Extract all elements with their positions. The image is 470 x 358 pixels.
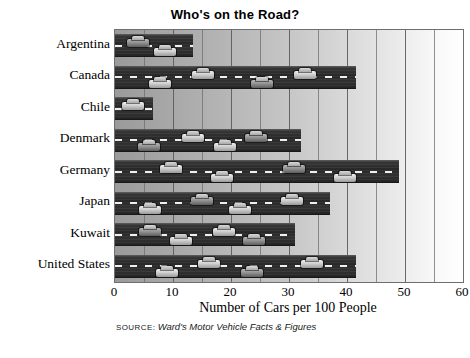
x-tick-label: 0 — [111, 284, 118, 300]
car-icon — [191, 197, 213, 205]
car-icon — [241, 269, 263, 277]
car-icon — [138, 143, 160, 151]
bar — [115, 34, 193, 57]
car-icon — [170, 237, 192, 245]
category-label: Argentina — [0, 36, 110, 52]
car-icon — [122, 102, 144, 110]
bar-row — [115, 156, 463, 188]
category-label: Canada — [0, 67, 110, 83]
x-tick-label: 30 — [282, 284, 295, 300]
bar-row — [115, 125, 463, 157]
category-label: Germany — [0, 162, 110, 178]
bar — [115, 192, 330, 215]
car-icon — [139, 228, 161, 236]
car-icon — [213, 228, 235, 236]
x-tick-label: 10 — [166, 284, 179, 300]
category-label: Kuwait — [0, 225, 110, 241]
x-tick-label: 40 — [340, 284, 353, 300]
car-icon — [156, 269, 178, 277]
source-label: SOURCE: — [116, 323, 155, 332]
category-label: Japan — [0, 193, 110, 209]
car-icon — [154, 48, 176, 56]
source-note: SOURCE: Ward's Motor Vehicle Facts & Fig… — [116, 321, 316, 332]
category-label: United States — [0, 256, 110, 272]
car-icon — [283, 165, 305, 173]
bar-row — [115, 62, 463, 94]
x-axis-label: Number of Cars per 100 People — [114, 300, 462, 316]
car-icon — [198, 260, 220, 268]
bar-row — [115, 30, 463, 62]
car-icon — [139, 206, 161, 214]
car-icon — [243, 237, 265, 245]
x-tick-label: 50 — [398, 284, 411, 300]
bar — [115, 129, 301, 152]
bar — [115, 255, 356, 278]
car-icon — [294, 71, 316, 79]
bar-row — [115, 93, 463, 125]
car-icon — [229, 206, 251, 214]
source-text: Ward's Motor Vehicle Facts & Figures — [158, 321, 317, 332]
car-icon — [182, 134, 204, 142]
car-icon — [301, 260, 323, 268]
car-icon — [211, 174, 233, 182]
car-icon — [245, 134, 267, 142]
x-tick-label: 60 — [456, 284, 469, 300]
car-icon — [214, 143, 236, 151]
bar-row — [115, 188, 463, 220]
category-label: Chile — [0, 99, 110, 115]
car-icon — [160, 165, 182, 173]
x-tick-label: 20 — [224, 284, 237, 300]
chart-title: Who's on the Road? — [0, 7, 470, 22]
bar — [115, 66, 356, 89]
chart-figure: Who's on the Road? ArgentinaCanadaChileD… — [0, 0, 470, 358]
bar-row — [115, 251, 463, 283]
car-icon — [127, 39, 149, 47]
bar — [115, 160, 399, 183]
car-icon — [149, 80, 171, 88]
car-icon — [251, 80, 273, 88]
bar — [115, 97, 153, 120]
category-label: Denmark — [0, 130, 110, 146]
car-icon — [192, 71, 214, 79]
plot-area — [114, 29, 464, 283]
car-icon — [281, 197, 303, 205]
bar — [115, 223, 295, 246]
x-axis-tick-labels: 0102030405060 — [114, 284, 462, 300]
car-icon — [334, 174, 356, 182]
y-axis-category-labels: ArgentinaCanadaChileDenmarkGermanyJapanK… — [0, 29, 110, 281]
bar-row — [115, 219, 463, 251]
